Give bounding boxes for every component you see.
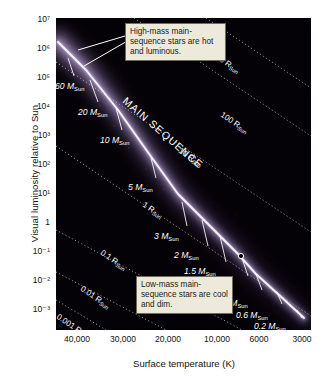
mass-label-sub: Sun	[238, 303, 248, 309]
callout-high-mass: High-mass main-sequence stars are hot an…	[125, 23, 226, 61]
y-tick-label: 10⁻³	[16, 305, 50, 314]
mass-label-text: 20 M	[77, 107, 98, 117]
mass-label-text: 3 M	[154, 231, 169, 241]
y-tick-label: 10⁷	[16, 15, 50, 24]
x-tick-label: 3000	[293, 334, 312, 344]
x-axis-title: Surface temperature (K)	[56, 358, 312, 369]
mass-label-text: 0.2 M	[254, 321, 276, 330]
mass-label-text: 5 M	[128, 182, 143, 192]
mass-label-sub: Sun	[188, 255, 198, 261]
mass-label-text: 60 M	[56, 81, 75, 91]
mass-label-sub: Sun	[142, 187, 152, 193]
x-tick-label: 40,000	[64, 334, 90, 344]
mass-label-sub: Sun	[74, 86, 84, 92]
x-tick-label: 20,000	[155, 334, 181, 344]
y-tick-label: 10⁶	[16, 44, 50, 53]
mass-label-text: 2 M	[173, 250, 189, 260]
mass-label-sub: Sun	[97, 112, 107, 118]
callout-low-mass: Low-mass main-sequence stars are cool an…	[136, 276, 233, 314]
x-tick-label: 30,000	[110, 334, 136, 344]
mass-label-text: 1.5 M	[184, 266, 206, 276]
mass-label-sub: Sun	[258, 315, 268, 321]
mass-label-sub: Sun	[168, 236, 178, 242]
y-axis-ticks: 10⁷ 10⁶ 10⁵ 10⁴ 10³ 10² 10¹ 1 10⁻¹ 10⁻² …	[0, 0, 50, 379]
mass-label-sub: Sun	[276, 326, 286, 330]
x-tick-label: 6000	[250, 334, 269, 344]
y-axis-title: Visual luminosity relative to Sun	[29, 54, 40, 294]
mass-label-sub: Sun	[119, 140, 129, 146]
hr-diagram-figure: 10⁷ 10⁶ 10⁵ 10⁴ 10³ 10² 10¹ 1 10⁻¹ 10⁻² …	[0, 0, 324, 379]
mass-label-text: 0.6 M	[236, 310, 258, 320]
mass-label-text: 10 M	[100, 135, 120, 145]
sun-symbol-icon	[238, 253, 243, 258]
x-tick-label: 10,000	[204, 334, 230, 344]
